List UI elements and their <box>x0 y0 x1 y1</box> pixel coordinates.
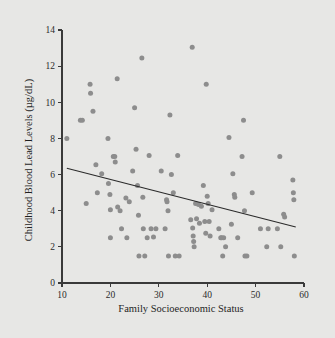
data-point <box>99 171 104 176</box>
data-point <box>106 181 111 186</box>
data-point <box>192 244 197 249</box>
data-point <box>207 219 212 224</box>
y-tick-label: 14 <box>46 25 56 35</box>
y-tick-label: 8 <box>50 134 55 144</box>
data-point <box>177 253 182 258</box>
data-point <box>291 197 296 202</box>
x-axis-title: Family Socioeconomic Status <box>118 303 243 314</box>
data-point <box>139 56 144 61</box>
data-point <box>188 217 193 222</box>
y-tick-label: 2 <box>50 242 55 252</box>
x-tick-label: 20 <box>106 290 116 300</box>
data-point <box>64 136 69 141</box>
x-tick-label: 60 <box>299 290 309 300</box>
x-tick-label: 30 <box>154 290 164 300</box>
data-point <box>147 153 152 158</box>
data-point <box>141 226 146 231</box>
data-point <box>171 190 176 195</box>
data-point <box>115 76 120 81</box>
data-point <box>149 226 154 231</box>
data-point <box>220 253 225 258</box>
data-point <box>113 159 118 164</box>
data-point <box>203 231 208 236</box>
data-point <box>244 253 249 258</box>
data-point <box>90 109 95 114</box>
y-axis-title: Childhood Blood Lead Levels (µg/dL) <box>23 78 35 241</box>
data-point <box>166 208 171 213</box>
data-point <box>242 208 247 213</box>
data-point <box>235 235 240 240</box>
data-point <box>226 135 231 140</box>
y-tick-label: 6 <box>50 170 55 180</box>
data-point <box>107 192 112 197</box>
tick-labels-group: 02468101214102030405060 <box>46 25 310 299</box>
data-point <box>167 112 172 117</box>
data-point <box>194 216 199 221</box>
data-point <box>151 234 156 239</box>
data-point <box>134 147 139 152</box>
data-point <box>80 118 85 123</box>
data-point <box>88 91 93 96</box>
data-point <box>264 244 269 249</box>
data-point <box>191 239 196 244</box>
data-point <box>84 201 89 206</box>
data-point <box>175 153 180 158</box>
data-point <box>108 235 113 240</box>
data-point <box>140 195 145 200</box>
data-point <box>119 226 124 231</box>
data-point <box>230 171 235 176</box>
x-tick-label: 10 <box>57 290 67 300</box>
data-point <box>191 234 196 239</box>
data-point <box>163 226 168 231</box>
data-point <box>166 253 171 258</box>
data-point <box>124 235 129 240</box>
x-tick-label: 40 <box>202 290 212 300</box>
data-point <box>153 226 158 231</box>
data-point <box>240 154 245 159</box>
data-point <box>136 213 141 218</box>
data-point <box>277 154 282 159</box>
data-point <box>278 244 283 249</box>
data-point <box>205 194 210 199</box>
data-point <box>190 225 195 230</box>
data-point <box>118 208 123 213</box>
data-point <box>208 234 213 239</box>
data-point <box>202 219 207 224</box>
data-point <box>145 235 150 240</box>
y-tick-label: 0 <box>50 278 55 288</box>
data-point <box>241 118 246 123</box>
data-point <box>142 253 147 258</box>
data-point <box>159 168 164 173</box>
data-point <box>201 183 206 188</box>
data-point <box>204 82 209 87</box>
data-point <box>190 45 195 50</box>
data-point <box>221 235 226 240</box>
data-point <box>232 195 237 200</box>
trend-line-segment <box>67 168 296 227</box>
data-point <box>250 190 255 195</box>
y-tick-label: 12 <box>46 61 56 71</box>
data-point <box>292 253 297 258</box>
data-point <box>105 136 110 141</box>
data-point <box>136 253 141 258</box>
data-point <box>197 221 202 226</box>
data-point <box>210 207 215 212</box>
data-point <box>290 177 295 182</box>
data-point <box>95 190 100 195</box>
scatter-plot-figure: 02468101214102030405060 Family Socioecon… <box>0 0 335 338</box>
x-tick-label: 50 <box>251 290 261 300</box>
data-point <box>229 222 234 227</box>
data-point <box>93 162 98 167</box>
data-point <box>127 199 132 204</box>
data-point <box>282 215 287 220</box>
data-point <box>165 199 170 204</box>
data-point <box>216 226 221 231</box>
data-point <box>112 154 117 159</box>
data-point <box>266 226 271 231</box>
regression-line <box>67 168 296 227</box>
data-points-group <box>64 45 296 259</box>
data-point <box>258 226 263 231</box>
plot-svg: 02468101214102030405060 Family Socioecon… <box>0 0 335 338</box>
data-point <box>132 105 137 110</box>
data-point <box>108 207 113 212</box>
